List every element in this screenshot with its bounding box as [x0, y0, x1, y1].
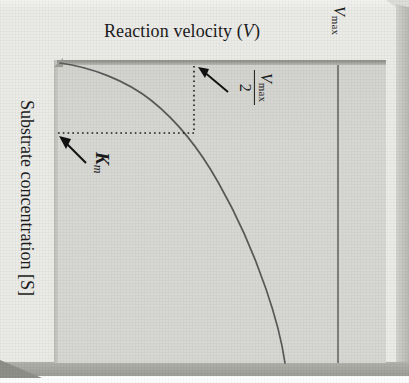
half-vmax-fraction: Vmax 2 — [236, 70, 274, 105]
y-axis-label: Substrate concentration [S] — [18, 100, 36, 296]
vmax-label-subscript: max — [330, 16, 342, 36]
vmax-label-variable: V — [331, 6, 348, 16]
half-vmax-numerator-subscript: max — [257, 83, 269, 103]
chart-title: Reaction velocity (V) — [104, 22, 260, 40]
chart-title-suffix: ) — [254, 21, 260, 41]
km-label-subscript: m — [91, 165, 105, 174]
km-arrow — [59, 136, 86, 163]
half-vmax-numerator-variable: V — [258, 73, 275, 83]
fraction-bar — [254, 70, 256, 105]
michaelis-menten-figure: Reaction velocity (V) Vmax Substrate con… — [0, 0, 409, 383]
michaelis-menten-curve — [60, 63, 285, 363]
chart-title-prefix: Reaction velocity ( — [104, 21, 243, 41]
half-vmax-denominator: 2 — [236, 84, 254, 92]
chart-title-variable: V — [243, 21, 254, 41]
km-label-variable: K — [92, 152, 113, 165]
half-vmax-numerator: Vmax — [255, 70, 274, 105]
km-label: Km — [92, 152, 112, 173]
half-vmax-arrow — [198, 67, 228, 92]
plot-vector-layer — [0, 0, 409, 383]
half-vmax-label: Vmax 2 — [236, 70, 275, 105]
vmax-axis-label: Vmax — [330, 6, 347, 35]
